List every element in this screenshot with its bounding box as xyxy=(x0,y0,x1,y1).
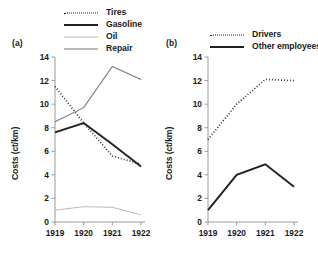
series-line-oil xyxy=(55,207,141,215)
series-line-drivers xyxy=(208,79,294,139)
y-tick-label: 0 xyxy=(44,217,49,227)
x-tick-label: 1920 xyxy=(227,228,246,238)
panel-b-svg: 024681012141919192019211922 xyxy=(158,0,318,262)
y-tick-label: 8 xyxy=(44,123,49,133)
x-tick-label: 1920 xyxy=(74,228,93,238)
series-line-gasoline xyxy=(55,123,141,167)
x-tick-label: 1922 xyxy=(285,228,304,238)
x-tick-label: 1919 xyxy=(199,228,218,238)
y-tick-label: 2 xyxy=(197,193,202,203)
y-tick-label: 14 xyxy=(40,52,50,62)
y-tick-label: 4 xyxy=(44,170,49,180)
y-tick-label: 10 xyxy=(193,99,203,109)
y-tick-label: 10 xyxy=(40,99,50,109)
y-tick-label: 2 xyxy=(44,193,49,203)
y-tick-label: 12 xyxy=(40,76,50,86)
panel-a: (a) TiresGasolineOilRepair Costs (ct/km)… xyxy=(0,0,158,262)
panel-b: (b) DriversOther employees Costs (ct/km)… xyxy=(158,0,318,262)
y-tick-label: 8 xyxy=(197,123,202,133)
y-tick-label: 14 xyxy=(193,52,203,62)
x-tick-label: 1922 xyxy=(132,228,151,238)
figure: (a) TiresGasolineOilRepair Costs (ct/km)… xyxy=(0,0,318,262)
y-tick-label: 6 xyxy=(197,146,202,156)
y-tick-label: 4 xyxy=(197,170,202,180)
y-tick-label: 0 xyxy=(197,217,202,227)
y-tick-label: 6 xyxy=(44,146,49,156)
series-line-other-employees xyxy=(208,164,294,210)
x-tick-label: 1919 xyxy=(46,228,65,238)
x-tick-label: 1921 xyxy=(256,228,275,238)
x-tick-label: 1921 xyxy=(103,228,122,238)
panel-a-svg: 024681012141919192019211922 xyxy=(0,0,158,262)
series-line-tires xyxy=(55,86,141,164)
panel-a-plot: 024681012141919192019211922 xyxy=(0,0,158,262)
panel-b-plot: 024681012141919192019211922 xyxy=(158,0,318,262)
series-line-repair xyxy=(55,66,141,121)
y-tick-label: 12 xyxy=(193,76,203,86)
